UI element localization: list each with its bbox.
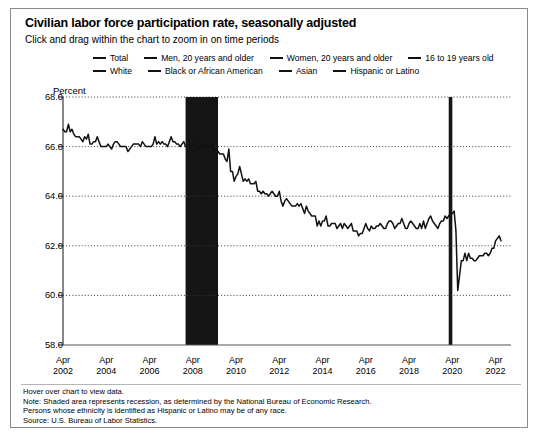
x-tick-year: 2006 xyxy=(140,366,160,376)
y-axis-tick: 66.0 xyxy=(45,142,63,152)
y-axis-tick: 58.0 xyxy=(45,340,63,350)
x-axis-tick-labels: Apr2002Apr2004Apr2006Apr2008Apr2010Apr20… xyxy=(11,353,529,383)
legend-label: Hispanic or Latino xyxy=(350,66,419,76)
x-tick-month: Apr xyxy=(272,355,286,365)
legend-item-total[interactable]: Total xyxy=(93,53,128,63)
x-tick-year: 2022 xyxy=(486,366,506,376)
y-axis-tick-labels: 68.066.064.062.060.058.0 xyxy=(19,97,63,345)
x-tick-month: Apr xyxy=(359,355,373,365)
recession-band xyxy=(449,97,453,345)
x-tick-month: Apr xyxy=(402,355,416,365)
x-tick-month: Apr xyxy=(489,355,503,365)
y-axis-tick: 64.0 xyxy=(45,191,63,201)
footnote-line: Note: Shaded area represents recession, … xyxy=(23,397,523,407)
x-axis-tick: Apr2018 xyxy=(399,355,419,377)
x-tick-month: Apr xyxy=(186,355,200,365)
legend-swatch-icon xyxy=(144,57,157,59)
x-tick-year: 2010 xyxy=(226,366,246,376)
x-tick-year: 2016 xyxy=(356,366,376,376)
legend-label: Black or African American xyxy=(165,66,263,76)
chart-panel: Civilian labor force participation rate,… xyxy=(10,8,528,428)
legend-label: Men, 20 years and older xyxy=(161,53,254,63)
legend-swatch-icon xyxy=(270,57,283,59)
legend-swatch-icon xyxy=(408,57,421,59)
legend-item-black-or-african-american[interactable]: Black or African American xyxy=(148,66,263,76)
chart-subtitle: Click and drag within the chart to zoom … xyxy=(25,34,279,45)
legend-label: White xyxy=(110,66,132,76)
y-axis-tick: 68.0 xyxy=(45,92,63,102)
x-tick-year: 2018 xyxy=(399,366,419,376)
x-axis-tick: Apr2008 xyxy=(183,355,203,377)
x-axis-tick: Apr2010 xyxy=(226,355,246,377)
y-axis-tick: 62.0 xyxy=(45,241,63,251)
x-tick-month: Apr xyxy=(143,355,157,365)
legend-item-asian[interactable]: Asian xyxy=(279,66,318,76)
legend-item-hispanic-or-latino[interactable]: Hispanic or Latino xyxy=(333,66,419,76)
x-tick-month: Apr xyxy=(229,355,243,365)
legend-row-1: Total Men, 20 years and older Women, 20 … xyxy=(71,51,521,64)
x-tick-year: 2012 xyxy=(269,366,289,376)
legend-swatch-icon xyxy=(279,70,292,72)
x-axis-tick: Apr2014 xyxy=(313,355,333,377)
x-axis-tick: Apr2006 xyxy=(140,355,160,377)
footnote-line: Source: U.S. Bureau of Labor Statistics. xyxy=(23,416,523,426)
x-axis-tick: Apr2012 xyxy=(269,355,289,377)
legend-swatch-icon xyxy=(93,70,106,72)
x-tick-month: Apr xyxy=(99,355,113,365)
legend-swatch-icon xyxy=(333,70,346,72)
legend-label: Total xyxy=(110,53,128,63)
legend-item-men-20-and-older[interactable]: Men, 20 years and older xyxy=(144,53,254,63)
x-axis-tick: Apr2022 xyxy=(486,355,506,377)
recession-band xyxy=(186,97,218,345)
x-axis-tick: Apr2002 xyxy=(53,355,73,377)
chart-legend: Total Men, 20 years and older Women, 20 … xyxy=(71,51,521,77)
chart-footnotes: Hover over chart to view data.Note: Shad… xyxy=(23,387,523,425)
x-tick-month: Apr xyxy=(445,355,459,365)
y-axis-tick: 60.0 xyxy=(45,290,63,300)
x-axis-tick: Apr2004 xyxy=(96,355,116,377)
legend-row-2: White Black or African American Asian Hi… xyxy=(71,64,521,77)
footnote-line: Hover over chart to view data. xyxy=(23,387,523,397)
x-tick-year: 2004 xyxy=(96,366,116,376)
x-tick-month: Apr xyxy=(316,355,330,365)
legend-label: Women, 20 years and older xyxy=(287,53,392,63)
chart-title: Civilian labor force participation rate,… xyxy=(25,16,356,30)
x-axis-tick: Apr2020 xyxy=(442,355,462,377)
x-tick-year: 2014 xyxy=(313,366,333,376)
footnote-line: Persons whose ethnicity is identified as… xyxy=(23,406,523,416)
legend-item-women-20-and-older[interactable]: Women, 20 years and older xyxy=(270,53,392,63)
x-tick-year: 2020 xyxy=(442,366,462,376)
legend-item-white[interactable]: White xyxy=(93,66,132,76)
x-axis-tick: Apr2016 xyxy=(356,355,376,377)
x-tick-year: 2002 xyxy=(53,366,73,376)
legend-swatch-icon xyxy=(93,57,106,59)
legend-item-16-to-19-years-old[interactable]: 16 to 19 years old xyxy=(408,53,493,63)
legend-swatch-icon xyxy=(148,70,161,72)
legend-label: Asian xyxy=(296,66,318,76)
footer-divider xyxy=(21,384,521,385)
x-tick-month: Apr xyxy=(56,355,70,365)
legend-label: 16 to 19 years old xyxy=(425,53,493,63)
series-line-total[interactable] xyxy=(63,124,501,290)
x-tick-year: 2008 xyxy=(183,366,203,376)
